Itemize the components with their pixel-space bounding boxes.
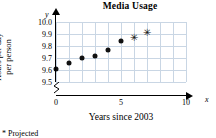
chart-figure: Media Usage 10.0 9.9 9.8 9.7 9.6 9.5 Hou…: [0, 0, 216, 138]
chart-title: Media Usage: [60, 1, 200, 11]
x-axis-letter: x: [205, 95, 209, 104]
gridline-vertical: [82, 22, 83, 82]
projected-data-point: ✳: [130, 35, 138, 41]
plot-area: ✳ ✳: [56, 22, 186, 82]
x-tick-label: 10: [176, 98, 196, 107]
data-point: [106, 47, 111, 52]
gridline-horizontal: [56, 22, 186, 23]
gridline-vertical: [160, 22, 161, 82]
data-point: [119, 39, 124, 44]
gridline-horizontal: [56, 34, 186, 35]
gridline-horizontal: [56, 70, 186, 71]
x-axis-line: [56, 95, 189, 96]
gridline-vertical: [173, 22, 174, 82]
data-point: [80, 56, 85, 61]
gridline-vertical: [121, 22, 122, 82]
x-tick-label: 5: [111, 98, 131, 107]
y-axis-line: [55, 14, 56, 82]
data-point: [67, 60, 72, 65]
x-tick-label: 0: [46, 98, 66, 107]
y-axis-title: Hours per day per person: [0, 16, 56, 88]
gridline-vertical: [69, 22, 70, 82]
data-point: [93, 53, 98, 58]
gridline-vertical: [95, 22, 96, 82]
gridline-vertical: [186, 22, 187, 82]
y-axis-title-line2: per person: [3, 21, 13, 93]
chart-footnote: * Projected: [2, 129, 38, 138]
projected-data-point: ✳: [143, 30, 151, 36]
x-axis-title: Years since 2003: [56, 112, 186, 122]
y-axis-letter: y: [45, 10, 49, 19]
gridline-horizontal: [56, 46, 186, 47]
gridline-horizontal: [56, 58, 186, 59]
y-axis-arrow-icon: [52, 8, 60, 15]
axis-break-icon: [50, 82, 61, 94]
gridline-horizontal: [56, 82, 186, 83]
